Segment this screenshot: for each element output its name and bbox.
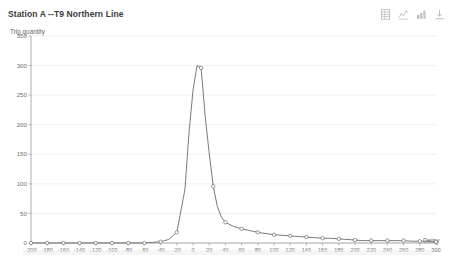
data-point-marker[interactable] xyxy=(29,241,32,244)
y-tick-label: 0 xyxy=(24,239,28,246)
chart-svg: 050100150200250300350 -200-180-160-140-1… xyxy=(0,0,454,266)
data-point-marker[interactable] xyxy=(402,239,405,242)
data-point-marker[interactable] xyxy=(272,233,275,236)
data-point-marker[interactable] xyxy=(110,241,113,244)
data-point-marker[interactable] xyxy=(370,239,373,242)
data-point-marker[interactable] xyxy=(224,221,227,224)
y-tick-label: 250 xyxy=(17,91,28,98)
data-point-marker[interactable] xyxy=(289,234,292,237)
plot-area: 050100150200250300350 -200-180-160-140-1… xyxy=(0,0,454,266)
gridlines xyxy=(31,36,436,243)
data-point-marker[interactable] xyxy=(418,240,421,243)
data-point-marker[interactable] xyxy=(199,66,202,69)
y-tick-label: 350 xyxy=(17,32,28,39)
data-point-marker[interactable] xyxy=(159,240,162,243)
data-point-marker[interactable] xyxy=(353,238,356,241)
data-point-marker[interactable] xyxy=(46,241,49,244)
y-tick-label: 150 xyxy=(17,150,28,157)
data-point-marker[interactable] xyxy=(434,240,437,243)
axis-lines xyxy=(31,36,436,243)
y-tick-label: 200 xyxy=(17,121,28,128)
y-tick-label: 50 xyxy=(20,210,27,217)
data-point-marker[interactable] xyxy=(256,231,259,234)
series-markers xyxy=(29,66,437,244)
data-point-marker[interactable] xyxy=(337,237,340,240)
y-tick-label: 100 xyxy=(17,180,28,187)
data-point-marker[interactable] xyxy=(143,241,146,244)
y-tick-label: 300 xyxy=(17,62,28,69)
data-point-marker[interactable] xyxy=(175,231,178,234)
data-point-marker[interactable] xyxy=(62,241,65,244)
chart-card: Station A --T9 Northern Line xyxy=(0,0,454,266)
data-point-marker[interactable] xyxy=(240,227,243,230)
data-point-marker[interactable] xyxy=(212,185,215,188)
bottom-band xyxy=(23,250,433,255)
data-point-marker[interactable] xyxy=(78,241,81,244)
data-point-marker[interactable] xyxy=(321,237,324,240)
data-point-marker[interactable] xyxy=(305,235,308,238)
data-point-marker[interactable] xyxy=(386,239,389,242)
data-point-marker[interactable] xyxy=(94,241,97,244)
y-axis-ticks: 050100150200250300350 xyxy=(17,32,31,246)
data-point-marker[interactable] xyxy=(127,241,130,244)
